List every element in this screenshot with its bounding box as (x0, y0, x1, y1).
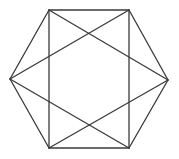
hexagon-edge-upper-left (10, 10, 49, 79)
hexagon-edge-lower-right (129, 80, 168, 148)
hexagon-edge-lower-left (10, 79, 49, 148)
hexagon-diagram (0, 0, 179, 159)
hexagon-edge-upper-right (129, 10, 168, 80)
diagonal-bottom-left-to-right (49, 80, 168, 148)
diagonal-top-left-to-right (49, 10, 168, 80)
diagram-edges (10, 10, 168, 148)
diagonal-top-right-to-left (10, 10, 129, 79)
diagonal-bottom-right-to-left (10, 79, 129, 148)
